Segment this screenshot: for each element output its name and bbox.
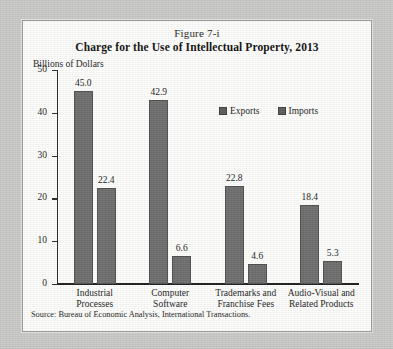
category-label-line: Related Products (284, 299, 360, 310)
category-label-line: Computer (133, 288, 209, 299)
legend-swatch-exports (219, 107, 227, 115)
bar-value-label: 5.3 (313, 248, 353, 258)
legend-item-exports: Exports (219, 106, 260, 116)
bar-value-label: 42.9 (139, 87, 179, 97)
bar-value-label: 6.6 (162, 243, 202, 253)
legend-label-exports: Exports (230, 106, 260, 116)
plot-area: 01020304050 45.022.442.96.622.84.618.45.… (23, 70, 371, 302)
bar (248, 264, 267, 284)
figure-source-note: Source: Bureau of Economic Analysis, Int… (31, 310, 250, 319)
category-label-line: Software (133, 299, 209, 310)
bar (172, 256, 191, 284)
figure-panel: Figure 7-i Charge for the Use of Intelle… (22, 20, 372, 332)
figure-number: Figure 7-i (23, 27, 371, 39)
figure-title: Charge for the Use of Intellectual Prope… (23, 41, 371, 53)
bar (74, 91, 93, 284)
bar-value-label: 45.0 (63, 78, 103, 88)
bar-value-label: 22.4 (86, 175, 126, 185)
bar (300, 205, 319, 284)
x-axis-category-label: ComputerSoftware (133, 288, 209, 310)
bar (225, 186, 244, 284)
category-label-line: Industrial Processes (57, 288, 133, 310)
legend-item-imports: Imports (278, 106, 319, 116)
bar-value-label: 22.8 (214, 173, 254, 183)
bar (149, 100, 168, 284)
legend-swatch-imports (278, 107, 286, 115)
bar-value-label: 18.4 (290, 192, 330, 202)
bar (323, 261, 342, 284)
category-label-line: Franchise Fees (208, 299, 284, 310)
y-axis-tick (52, 284, 57, 285)
x-axis-category-label: Audio-Visual andRelated Products (284, 288, 360, 310)
x-axis-category-label: Industrial Processes (57, 288, 133, 310)
chart-legend: Exports Imports (219, 106, 318, 116)
y-axis-unit-label: Billions of Dollars (33, 59, 371, 69)
x-axis-category-label: Trademarks andFranchise Fees (208, 288, 284, 310)
bars-layer: 45.022.442.96.622.84.618.45.3 (23, 70, 371, 284)
legend-label-imports: Imports (289, 106, 319, 116)
bar-value-label: 4.6 (237, 251, 277, 261)
category-label-line: Audio-Visual and (284, 288, 360, 299)
bar (97, 188, 116, 284)
category-label-line: Trademarks and (208, 288, 284, 299)
